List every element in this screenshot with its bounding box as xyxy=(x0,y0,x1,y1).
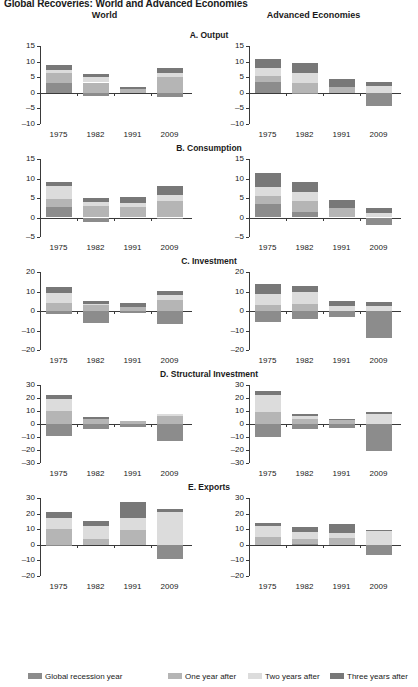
x-axis-label: 1991 xyxy=(113,582,153,591)
bar-segment xyxy=(120,421,146,424)
bar-segment xyxy=(83,526,109,539)
bar-segment xyxy=(157,414,183,416)
plot-area: 151050–51975198219912009 xyxy=(40,159,188,237)
y-axis-label: –5 xyxy=(26,104,35,112)
bar-segment xyxy=(46,73,72,82)
column-header-advanced: Advanced Economies xyxy=(209,10,418,20)
bar-segment xyxy=(292,527,318,532)
y-axis-label: –5 xyxy=(26,233,35,241)
bar-segment xyxy=(83,198,109,202)
bar-segment xyxy=(366,82,392,86)
bar-segment xyxy=(120,502,146,518)
x-axis-label: 1982 xyxy=(76,582,116,591)
x-axis-label: 2009 xyxy=(150,356,190,365)
x-tick xyxy=(114,218,115,221)
bar-segment xyxy=(255,76,281,82)
bar-segment xyxy=(292,286,318,293)
chart-c-world: 20100–10–201975198219912009 xyxy=(0,268,209,368)
x-axis-label: 1982 xyxy=(285,243,325,252)
x-tick xyxy=(323,218,324,221)
x-tick xyxy=(40,218,41,221)
x-tick xyxy=(40,424,41,427)
bar-segment xyxy=(83,311,109,323)
y-tick xyxy=(246,331,249,332)
bar-segment xyxy=(366,218,392,226)
y-axis-label: 0 xyxy=(31,541,35,549)
bar-segment xyxy=(46,287,72,294)
x-axis-label: 1975 xyxy=(39,582,79,591)
y-tick xyxy=(246,529,249,530)
bar-segment xyxy=(255,412,281,424)
bar-1982 xyxy=(292,46,318,124)
y-tick xyxy=(37,398,40,399)
bar-segment xyxy=(120,307,146,311)
x-axis-label: 1982 xyxy=(76,469,116,478)
x-axis-label: 1975 xyxy=(39,243,79,252)
bar-segment xyxy=(120,207,146,217)
bar-segment xyxy=(366,412,392,414)
bar-segment xyxy=(255,173,281,186)
y-tick xyxy=(246,108,249,109)
bar-segment xyxy=(292,73,318,84)
bar-segment xyxy=(329,533,355,538)
bar-2009 xyxy=(366,498,392,576)
x-axis-label: 1991 xyxy=(113,243,153,252)
bar-segment xyxy=(83,218,109,223)
bar-segment xyxy=(255,395,281,413)
y-axis-label: 20 xyxy=(26,268,35,276)
bar-1982 xyxy=(292,272,318,350)
bar-segment xyxy=(157,73,183,77)
y-axis-label: 5 xyxy=(240,194,244,202)
plot-area: 151050–5–101975198219912009 xyxy=(40,46,188,124)
bar-segment xyxy=(46,207,72,218)
x-axis-label: 1991 xyxy=(322,582,362,591)
bar-segment xyxy=(292,304,318,311)
y-axis-label: 30 xyxy=(26,381,35,389)
bar-segment xyxy=(329,311,355,317)
bar-segment xyxy=(255,187,281,196)
bar-segment xyxy=(157,195,183,201)
y-tick xyxy=(37,179,40,180)
bar-segment xyxy=(120,303,146,307)
y-axis-line xyxy=(249,46,250,124)
x-tick xyxy=(286,545,287,548)
chart-a-advanced: 151050–5–101975198219912009 xyxy=(209,42,418,142)
x-tick xyxy=(286,93,287,96)
plot-area: 20100–10–201975198219912009 xyxy=(249,272,397,350)
bar-segment xyxy=(157,68,183,74)
y-tick xyxy=(246,576,249,577)
y-axis-label: 10 xyxy=(235,175,244,183)
x-axis-label: 1982 xyxy=(76,130,116,139)
bar-1975 xyxy=(46,159,72,237)
legend-swatch xyxy=(330,673,344,679)
x-axis-label: 1982 xyxy=(76,356,116,365)
y-axis-label: 10 xyxy=(235,288,244,296)
x-axis-label: 1975 xyxy=(39,130,79,139)
chart-legend: Global recession yearOne year afterTwo y… xyxy=(0,671,418,685)
x-tick xyxy=(77,218,78,221)
bar-segment xyxy=(83,77,109,82)
x-tick xyxy=(114,93,115,96)
bar-segment xyxy=(46,182,72,186)
bar-segment xyxy=(292,192,318,201)
y-axis-line xyxy=(40,46,41,124)
y-tick xyxy=(37,514,40,515)
bar-1975 xyxy=(46,498,72,576)
bar-segment xyxy=(46,303,72,311)
bar-segment xyxy=(46,65,72,70)
bar-segment xyxy=(292,532,318,539)
bar-segment xyxy=(366,545,392,556)
bar-segment xyxy=(46,529,72,545)
panel-title: B. Consumption xyxy=(0,143,418,153)
y-axis-label: –10 xyxy=(231,327,244,335)
y-tick xyxy=(246,385,249,386)
bar-segment xyxy=(157,424,183,441)
y-axis-label: 0 xyxy=(31,420,35,428)
y-tick xyxy=(37,463,40,464)
y-axis-label: 0 xyxy=(240,420,244,428)
plot-area: 3020100–10–201975198219912009 xyxy=(249,498,397,576)
bar-2009 xyxy=(366,46,392,124)
x-tick xyxy=(249,311,250,314)
y-tick xyxy=(37,331,40,332)
x-tick xyxy=(323,545,324,548)
